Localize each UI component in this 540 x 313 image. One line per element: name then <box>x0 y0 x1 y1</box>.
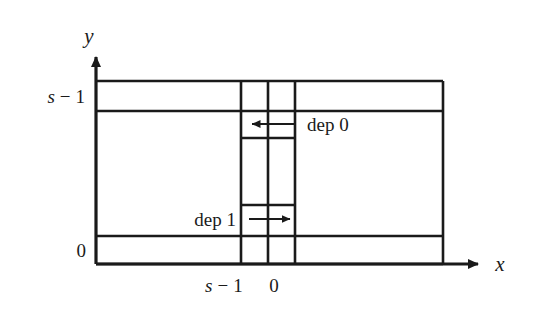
x-tick-minus-sign: − <box>217 275 228 296</box>
y-tick-minus-sign: − <box>60 86 71 107</box>
y-tick-labels-group: s−1 0 <box>47 86 86 261</box>
y-tick-label-zero: 0 <box>77 240 87 261</box>
x-tick-labels-group: s−1 0 <box>205 275 279 296</box>
x-axis-label: x <box>494 252 505 276</box>
dependency-grid-diagram: y x <box>0 0 540 313</box>
x-tick-label-s-minus-1: s−1 <box>205 275 243 296</box>
x-tick-s-variable: s <box>205 275 212 296</box>
y-tick-label-s-minus-1: s−1 <box>47 86 85 107</box>
dep-1-label: dep 1 <box>194 209 236 230</box>
x-tick-label-zero: 0 <box>269 275 279 296</box>
figure-container: y x <box>0 0 540 313</box>
y-tick-number: 1 <box>76 86 86 107</box>
y-tick-s-variable: s <box>47 86 54 107</box>
y-axis-label: y <box>82 24 94 48</box>
dep-0-label: dep 0 <box>307 114 349 135</box>
annotation-labels-group: dep 0 dep 1 <box>194 114 348 230</box>
grid-outline-group <box>96 81 443 264</box>
x-tick-number: 1 <box>233 275 243 296</box>
